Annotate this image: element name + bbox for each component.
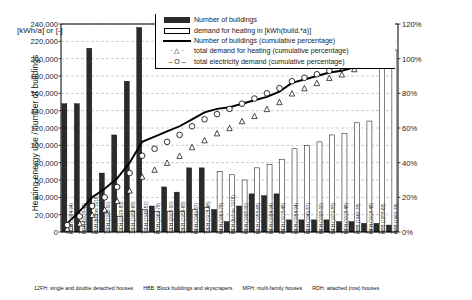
x-tick-label: MFH (1979-83) [331,203,336,234]
legend-label: Number of buildings (cumulative percenta… [194,37,335,45]
x-tick-label: 12FH (1958-68) [181,202,186,234]
x-tick-label: 12FH (1979-83) [119,202,124,234]
x-tick-label: MFH (1995-00) [319,203,324,234]
x-tick-label: MFH (1918-48) [281,203,286,234]
x-tick-label: RDH (1984-94) [69,203,74,234]
solid-line-swatch [160,40,194,42]
x-tick-label: MFH (1995-00) [244,203,249,234]
caption-entry: MFH: multi-family houses [242,285,302,291]
triangle-marker-swatch: · △ · [160,47,194,55]
x-tick-label: MFH (1949-57) [194,203,199,234]
x-tick-label: MFH (1984-94) [294,203,299,234]
x-tick-label: MFH (1984-94) [269,203,274,234]
chart-caption: 12FH: single and double detached housesH… [34,285,454,291]
chart-figure: Heating energy use / number of buildings… [0,0,472,300]
legend-item: demand for heating in [kWh(build.*a)] [160,25,393,35]
legend-label: Number of buildings [194,16,257,24]
x-tick-label: 12FH (1958-68) [131,202,136,234]
legend-label: total electricity demand (cumulative per… [194,58,345,66]
dark-bar-swatch [160,17,194,23]
x-tick-label: MFH (1918-48) [369,203,374,234]
chart-legend: Number of buildingsdemand for heating in… [155,14,395,69]
x-tick-label: MFH (1918-48) [344,203,349,234]
caption-entry: HBB: Block buildings and skyscrapers [143,285,232,291]
x-tick-label: 12FH (2005-00) [169,202,174,234]
x-tick-label: MFH (1969-78) [219,203,224,234]
legend-label: total demand for heating (cumulative per… [194,47,349,55]
x-tick-label: 12FH (1918-48) [206,202,211,234]
x-tick-label: MFH (before 1918) [231,195,236,234]
caption-entry: RDH: attached (row) houses [312,285,379,291]
x-tick-label: 12FH (1995-00) [106,202,111,234]
x-tick-label: HBB (1958-68) [381,203,386,234]
x-tick-label: RDH (1969-78) [156,203,161,234]
legend-item: Number of buildings (cumulative percenta… [160,36,393,46]
x-tick-label: MFH (1958-68) [256,203,261,234]
legend-item: Number of buildings [160,15,393,25]
x-tick-label: HBB (1969-78) [394,203,399,234]
legend-item: · △ ·total demand for heating (cumulativ… [160,46,393,56]
white-bar-swatch [160,28,194,34]
caption-entry: 12FH: single and double detached houses [34,285,133,291]
x-tick-label: HBB (1949-78) [356,203,361,234]
x-tick-label: RDH (1918-48) [82,203,87,234]
x-tick-label: RDH (before 1918) [94,195,99,234]
legend-item: – O –total electricity demand (cumulativ… [160,57,393,67]
legend-label: demand for heating in [kWh(build.*a)] [194,27,311,35]
x-tick-label: MFH (1949-57) [306,203,311,234]
circle-marker-swatch: – O – [160,58,194,65]
x-tick-label: 12FH (1949-57) [144,202,149,234]
